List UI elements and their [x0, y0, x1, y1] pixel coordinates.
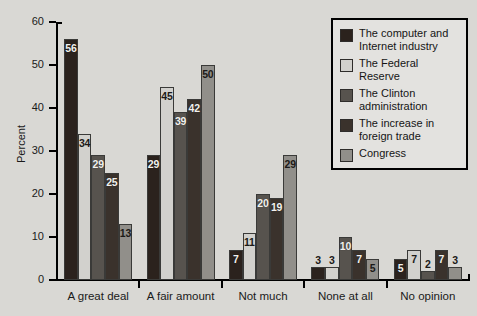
bar-value-label: 7 [408, 254, 420, 265]
bar: 45 [160, 87, 174, 281]
y-axis-tick-label: 30 [4, 145, 44, 156]
y-axis-tick [49, 107, 56, 109]
y-axis-tick-label: 20 [4, 188, 44, 199]
bar: 2 [421, 271, 435, 280]
chart-screenshot: The computer and Internet industryThe Fe… [0, 0, 477, 316]
bar-value-label: 2 [422, 259, 434, 270]
bar: 39 [174, 112, 188, 280]
bar-value-label: 45 [161, 91, 173, 102]
bar: 34 [78, 134, 92, 280]
x-axis-category-label: A fair amount [139, 290, 221, 302]
bar: 7 [352, 250, 366, 280]
x-axis-category-label: Not much [222, 290, 304, 302]
y-axis-tick [49, 193, 56, 195]
bar: 5 [394, 259, 408, 281]
bar-value-label: 7 [436, 254, 448, 265]
bar-value-label: 56 [65, 43, 77, 54]
y-axis-tick-label: 50 [4, 59, 44, 70]
bar: 7 [407, 250, 421, 280]
bar-value-label: 10 [340, 241, 352, 252]
bar: 7 [435, 250, 449, 280]
bar: 3 [311, 267, 325, 280]
x-axis-tick [303, 281, 305, 288]
bar: 19 [270, 198, 284, 280]
y-axis-tick-label: 0 [4, 274, 44, 285]
bar: 7 [229, 250, 243, 280]
y-axis-tick [49, 64, 56, 66]
bar: 10 [339, 237, 353, 280]
bar-value-label: 7 [353, 254, 365, 265]
x-axis-category-label: None at all [304, 290, 386, 302]
bar-value-label: 13 [120, 228, 132, 239]
bar-value-label: 3 [326, 255, 338, 266]
bar: 29 [147, 155, 161, 280]
plot-area: 5634292513294539425071120192933107557273 [57, 22, 469, 280]
y-axis-tick-label: 10 [4, 231, 44, 242]
bar-value-label: 42 [188, 103, 200, 114]
bar-value-label: 20 [257, 198, 269, 209]
bar: 20 [256, 194, 270, 280]
bar: 50 [201, 65, 215, 280]
bar-value-label: 25 [106, 177, 118, 188]
y-axis-tick [49, 21, 56, 23]
bar-value-label: 29 [284, 159, 296, 170]
bar-value-label: 29 [148, 159, 160, 170]
x-axis-category-label: A great deal [57, 290, 139, 302]
bar-value-label: 19 [271, 202, 283, 213]
x-axis-tick [138, 281, 140, 288]
y-axis-tick [49, 150, 56, 152]
bar-value-label: 34 [79, 138, 91, 149]
y-axis-tick-label: 40 [4, 102, 44, 113]
y-axis-title: Percent [15, 114, 27, 174]
bar-value-label: 50 [202, 69, 214, 80]
bar: 56 [64, 39, 78, 280]
y-axis-tick [49, 279, 56, 281]
y-axis-tick-label: 60 [4, 16, 44, 27]
bar-value-label: 5 [395, 263, 407, 274]
bar-value-label: 3 [449, 255, 461, 266]
bar-value-label: 3 [312, 255, 324, 266]
bar-value-label: 7 [230, 254, 242, 265]
y-axis-tick [49, 236, 56, 238]
bar-value-label: 11 [244, 237, 256, 248]
bar: 29 [91, 155, 105, 280]
bar: 29 [283, 155, 297, 280]
x-axis-category-label: No opinion [387, 290, 469, 302]
bar-value-label: 5 [367, 263, 379, 274]
bar: 42 [187, 99, 201, 280]
bar: 25 [105, 173, 119, 281]
x-axis-tick [221, 281, 223, 288]
bar: 3 [325, 267, 339, 280]
x-axis-tick [386, 281, 388, 288]
bar: 5 [366, 259, 380, 281]
bar: 3 [448, 267, 462, 280]
bar-value-label: 39 [175, 116, 187, 127]
bar-value-label: 29 [92, 159, 104, 170]
bar: 11 [243, 233, 257, 280]
bar: 13 [119, 224, 133, 280]
